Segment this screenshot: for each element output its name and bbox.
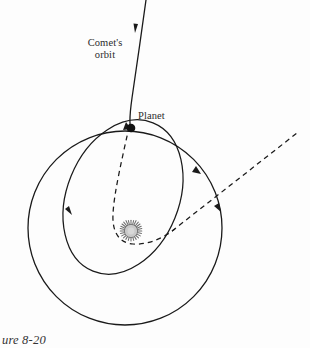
- figure-container: Comet's orbit Planet ure 8-20: [0, 0, 310, 348]
- comet-hyperbolic-asymptote: [172, 133, 297, 231]
- planet-label: Planet: [138, 110, 165, 122]
- planet-orbit-arrow-secondary-icon: [214, 203, 221, 212]
- comet-incoming-arrow-icon: [134, 24, 139, 34]
- comet-orbit-label: Comet's orbit: [74, 37, 136, 61]
- comet-ellipse-arrow-icon: [65, 206, 72, 215]
- planet-dot-marker: [127, 124, 136, 133]
- planet-orbit-arrow-icon: [192, 166, 201, 174]
- orbit-diagram: [0, 0, 310, 348]
- sun-icon: [120, 220, 142, 241]
- figure-caption: ure 8-20: [2, 333, 46, 348]
